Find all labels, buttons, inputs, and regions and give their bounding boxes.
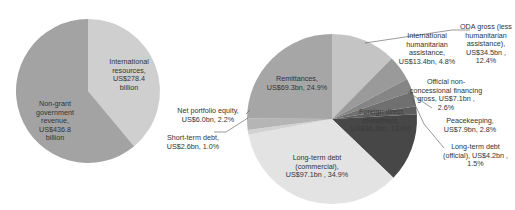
label-humanitarian-assistance: International humanitarian assistance, U… <box>397 32 457 66</box>
label-net-portfolio-equity: Net portfolio equity, US$6.0bn, 2.2% <box>170 107 246 124</box>
label-ltdebt-commercial: Long-term debt (commercial), US$97.1bn ,… <box>282 154 352 180</box>
label-oda-gross: ODA gross (less humanitarian assistance)… <box>456 23 515 66</box>
label-ltdebt-official: Long-term debt (official), US$4.2bn , 1.… <box>438 143 513 169</box>
label-fdi: Foreign direct investment, US$36.3bn, 13… <box>350 108 412 134</box>
label-official-non-concessional: Official non- concessional financing gro… <box>406 78 486 112</box>
label-non-grant-revenue: Non-grant government revenue, US$436.8 b… <box>30 100 80 143</box>
label-international-resources: International resources, US$278.4 billio… <box>103 58 155 92</box>
label-peacekeeping: Peacekeeping, US$7.9bn, 2.8% <box>440 117 500 134</box>
label-short-term-debt: Short-term debt, US$2.6bn, 1.0% <box>160 134 226 151</box>
label-remittances: Remittances, US$69.3bn, 24.9% <box>262 75 332 92</box>
